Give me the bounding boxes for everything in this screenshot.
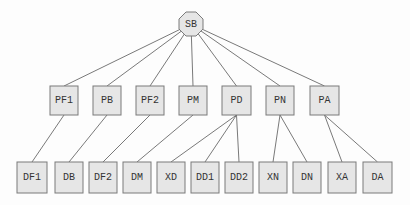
node-SB[interactable]: SB [179,12,203,36]
node-label: DD1 [196,172,214,183]
edge-SB-PN [191,24,280,86]
node-label: DM [131,172,143,183]
node-PA[interactable]: PA [310,86,339,115]
node-DA[interactable]: DA [363,162,392,193]
edge-PD-XD [171,115,237,162]
node-label: XA [336,172,348,183]
node-label: PF1 [55,95,73,106]
node-PB[interactable]: PB [93,86,121,115]
node-DB[interactable]: DB [55,162,83,193]
node-DF1[interactable]: DF1 [17,162,47,193]
node-label: XD [165,172,177,183]
tree-diagram: SBPF1PBPF2PMPDPNPADF1DBDF2DMXDDD1DD2XNDN… [0,0,410,205]
edge-PM-DM [137,115,193,162]
nodes: SBPF1PBPF2PMPDPNPADF1DBDF2DMXDDD1DD2XNDN… [17,12,392,193]
edge-SB-PA [191,24,325,86]
edge-PA-XA [325,115,343,162]
node-DD2[interactable]: DD2 [225,162,253,193]
node-label: DA [371,172,383,183]
node-label: PD [230,95,242,106]
node-label: DB [63,172,75,183]
edge-PD-DD2 [237,115,240,162]
edge-PA-DA [325,115,378,162]
node-DD1[interactable]: DD1 [191,162,219,193]
node-label: PN [274,95,286,106]
node-label: PM [187,95,199,106]
node-XN[interactable]: XN [259,162,287,193]
edge-PF1-DF1 [32,115,64,162]
edge-PB-DB [69,115,107,162]
node-label: DF1 [23,172,41,183]
node-label: XN [267,172,279,183]
edge-PN-XN [273,115,280,162]
edge-PN-DN [280,115,307,162]
node-DF2[interactable]: DF2 [89,162,117,193]
node-XA[interactable]: XA [328,162,356,193]
node-DM[interactable]: DM [123,162,151,193]
node-PD[interactable]: PD [222,86,251,115]
node-label: PB [101,95,113,106]
edge-PF2-DF2 [103,115,150,162]
node-PF1[interactable]: PF1 [50,86,78,115]
edge-SB-PF1 [64,24,191,86]
edge-PD-DD1 [205,115,237,162]
node-PM[interactable]: PM [179,86,207,115]
node-label: SB [185,19,197,30]
node-label: DF2 [94,172,112,183]
node-XD[interactable]: XD [157,162,185,193]
node-label: DN [301,172,313,183]
diagram-canvas: SBPF1PBPF2PMPDPNPADF1DBDF2DMXDDD1DD2XNDN… [0,0,410,205]
node-PN[interactable]: PN [266,86,294,115]
node-DN[interactable]: DN [293,162,321,193]
node-label: DD2 [230,172,248,183]
node-PF2[interactable]: PF2 [136,86,164,115]
node-label: PA [318,95,330,106]
node-label: PF2 [141,95,159,106]
edge-SB-PB [107,24,191,86]
